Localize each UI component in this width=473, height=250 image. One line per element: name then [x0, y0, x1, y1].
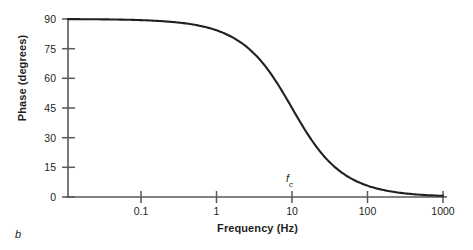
y-tick-label-0: 0	[26, 191, 56, 203]
y-axis-title: Phase (degrees)	[16, 0, 30, 178]
x-tick-label-100: 100	[348, 205, 388, 217]
x-axis-title: Frequency (Hz)	[0, 222, 473, 234]
cutoff-frequency-subscript: c	[289, 180, 293, 189]
y-tick-label-90: 90	[26, 13, 56, 25]
x-tick-label-10: 10	[272, 205, 312, 217]
y-tick-label-30: 30	[26, 132, 56, 144]
cutoff-frequency-annotation: fc	[286, 172, 293, 187]
figure-panel-b: 90 75 60 45 30 15 0 0.1 1 10 100 1000 fc…	[0, 0, 473, 250]
phase-response-curve	[68, 19, 443, 196]
panel-label: b	[15, 228, 21, 240]
phase-bode-plot	[0, 0, 473, 250]
x-tick-label-1000: 1000	[423, 205, 463, 217]
y-tick-label-15: 15	[26, 161, 56, 173]
y-tick-label-45: 45	[26, 102, 56, 114]
y-tick-label-75: 75	[26, 43, 56, 55]
x-tick-label-0.1: 0.1	[121, 205, 161, 217]
x-tick-label-1: 1	[197, 205, 237, 217]
y-tick-label-60: 60	[26, 72, 56, 84]
